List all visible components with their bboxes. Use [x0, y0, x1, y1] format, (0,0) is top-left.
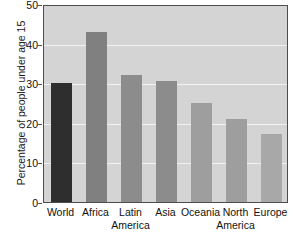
y-tick-mark — [38, 5, 42, 6]
x-tick-label-line1: Asia — [155, 206, 175, 218]
x-tick-label-line1: World — [47, 206, 74, 218]
y-tick-label: 0 — [4, 197, 38, 209]
bar-oceania — [191, 103, 213, 202]
x-tick-label: Asia — [155, 206, 175, 219]
y-tick-label: 40 — [4, 39, 38, 51]
bars-group — [44, 6, 287, 202]
y-tick-mark — [38, 163, 42, 164]
x-tick-label: LatinAmerica — [111, 206, 150, 231]
y-tick-mark — [38, 45, 42, 46]
bar-chart-figure: Percentage of people under age 15 010203… — [0, 0, 298, 238]
plot-area — [43, 5, 288, 203]
x-tick-label-line1: North — [223, 206, 249, 218]
y-axis-tick-labels: 01020304050 — [0, 0, 38, 238]
y-tick-mark — [38, 84, 42, 85]
bar-europe — [261, 134, 283, 203]
x-tick-label: Oceania — [181, 206, 220, 219]
y-tick-mark — [38, 124, 42, 125]
x-tick-label-line2: America — [216, 219, 255, 232]
x-axis-tick-labels: WorldAfricaLatinAmericaAsiaOceaniaNorthA… — [43, 206, 288, 238]
x-tick-label: World — [47, 206, 74, 219]
x-tick-label: Africa — [82, 206, 109, 219]
bar-asia — [156, 81, 178, 202]
x-tick-label-line1: Africa — [82, 206, 109, 218]
bar-latin-america — [121, 75, 143, 202]
bar-world — [51, 83, 73, 202]
x-tick-label-line1: Europe — [254, 206, 288, 218]
y-tick-mark — [38, 203, 42, 204]
y-tick-label: 20 — [4, 118, 38, 130]
x-tick-label-line1: Oceania — [181, 206, 220, 218]
bar-africa — [86, 32, 108, 202]
x-tick-label-line2: America — [111, 219, 150, 232]
x-tick-label-line1: Latin — [119, 206, 142, 218]
y-tick-label: 10 — [4, 157, 38, 169]
x-tick-label: NorthAmerica — [216, 206, 255, 231]
y-tick-label: 30 — [4, 78, 38, 90]
x-tick-label: Europe — [254, 206, 288, 219]
bar-north-america — [226, 119, 248, 202]
y-tick-label: 50 — [4, 0, 38, 11]
